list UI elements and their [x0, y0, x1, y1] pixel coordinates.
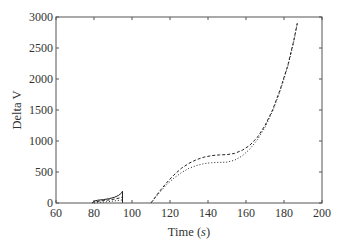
series-solid-line — [92, 191, 122, 203]
y-tick-label: 500 — [35, 165, 53, 179]
x-tick-label: 80 — [88, 206, 100, 220]
delta-v-chart: 6080100120140160180200 05001000150020002… — [0, 0, 346, 246]
x-axis-label: Time (s) — [168, 225, 210, 239]
y-axis-ticks: 050010001500200025003000 — [29, 10, 322, 210]
x-tick-label: 140 — [199, 206, 217, 220]
y-tick-label: 1500 — [29, 103, 53, 117]
x-tick-label: 180 — [275, 206, 293, 220]
plot-area — [92, 23, 297, 203]
x-axis-ticks: 6080100120140160180200 — [50, 17, 331, 220]
y-tick-label: 3000 — [29, 10, 53, 24]
axes-frame — [56, 17, 322, 203]
y-tick-label: 0 — [47, 196, 53, 210]
y-tick-label: 2500 — [29, 41, 53, 55]
x-tick-label: 120 — [161, 206, 179, 220]
y-tick-label: 2000 — [29, 72, 53, 86]
y-tick-label: 1000 — [29, 134, 53, 148]
y-axis-label: Delta V — [10, 91, 24, 130]
series-dashed-line — [151, 23, 297, 203]
series-dotted-line — [151, 23, 297, 203]
x-tick-label: 160 — [237, 206, 255, 220]
x-tick-label: 200 — [313, 206, 331, 220]
series-dashed-line — [92, 197, 122, 203]
x-tick-label: 100 — [123, 206, 141, 220]
